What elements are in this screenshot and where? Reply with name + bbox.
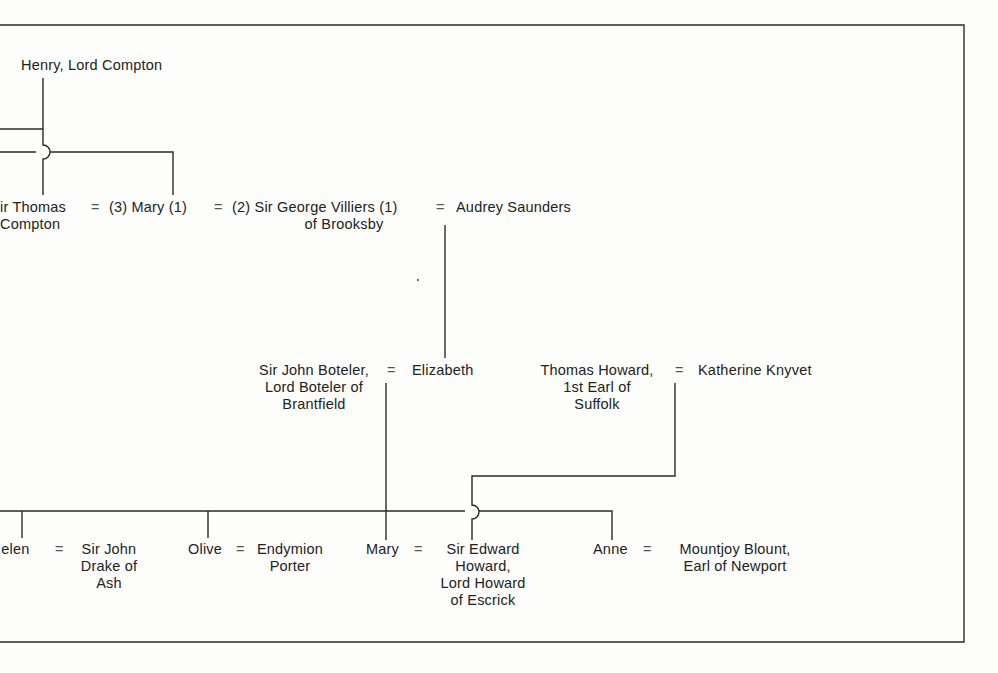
- person-katherine-knyvet: Katherine Knyvet: [698, 362, 812, 379]
- speck: [417, 279, 419, 281]
- marriage-sign: =: [236, 541, 245, 558]
- person-olive: Olive: [188, 541, 222, 558]
- person-anne: Anne: [593, 541, 628, 558]
- person-elizabeth: Elizabeth: [412, 362, 473, 379]
- name-line: (2) Sir George Villiers (1): [232, 199, 436, 216]
- name-line: ir Thomas: [0, 199, 66, 216]
- name-line: Brantfield: [246, 396, 382, 413]
- marriage-sign: =: [387, 362, 396, 379]
- marriage-sign: =: [643, 541, 652, 558]
- name-line: Howard,: [428, 558, 538, 575]
- name-line: of Brooksby: [232, 216, 436, 233]
- person-mary: (3) Mary (1): [109, 199, 187, 216]
- name-line: Sir John: [72, 541, 146, 558]
- name-line: Endymion: [250, 541, 330, 558]
- name-line: Sir Edward: [428, 541, 538, 558]
- name-line: Suffolk: [533, 396, 661, 413]
- name-line: Thomas Howard,: [533, 362, 661, 379]
- person-mountjoy-blount: Mountjoy Blount, Earl of Newport: [660, 541, 810, 575]
- name-line: Earl of Newport: [660, 558, 810, 575]
- marriage-sign: =: [675, 362, 684, 379]
- name-line: Ash: [72, 575, 146, 592]
- person-thomas-howard: Thomas Howard, 1st Earl of Suffolk: [533, 362, 661, 413]
- name-line: Sir John Boteler,: [246, 362, 382, 379]
- marriage-sign: =: [91, 199, 100, 216]
- person-henry-lord-compton: Henry, Lord Compton: [21, 57, 162, 74]
- person-audrey-saunders: Audrey Saunders: [456, 199, 571, 216]
- name-line: Porter: [250, 558, 330, 575]
- person-endymion-porter: Endymion Porter: [250, 541, 330, 575]
- marriage-sign: =: [214, 199, 223, 216]
- name-line: 1st Earl of: [533, 379, 661, 396]
- marriage-sign: =: [55, 541, 64, 558]
- name-line: Drake of: [72, 558, 146, 575]
- marriage-sign: =: [436, 199, 445, 216]
- person-mary-boteler: Mary: [366, 541, 399, 558]
- marriage-sign: =: [414, 541, 423, 558]
- person-helen: Ielen: [0, 541, 29, 558]
- person-sir-john-drake: Sir John Drake of Ash: [72, 541, 146, 592]
- person-sir-thomas-compton: ir Thomas Compton: [0, 199, 66, 233]
- person-sir-john-boteler: Sir John Boteler, Lord Boteler of Brantf…: [246, 362, 382, 413]
- name-line: Lord Boteler of: [246, 379, 382, 396]
- person-sir-edward-howard: Sir Edward Howard, Lord Howard of Escric…: [428, 541, 538, 609]
- name-line: Compton: [0, 216, 66, 233]
- name-line: Mountjoy Blount,: [660, 541, 810, 558]
- name-line: Lord Howard: [428, 575, 538, 592]
- person-sir-george-villiers: (2) Sir George Villiers (1) of Brooksby: [232, 199, 436, 233]
- name-line: of Escrick: [428, 592, 538, 609]
